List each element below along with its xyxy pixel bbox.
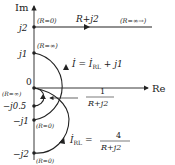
label-r0-top: (R=0) xyxy=(37,17,57,25)
locus-diagram: Im Re j2 j1 0 −j0.5 −j1 −j2 (R=0) R+j2 (… xyxy=(0,0,175,165)
label-r0-mj1: (R=0) xyxy=(36,122,55,129)
tick-mj05: −j0.5 xyxy=(3,101,26,111)
label-r-inf-right: (R=∞→) xyxy=(120,17,147,25)
point-j1 xyxy=(32,51,36,55)
tick-j1: j1 xyxy=(17,49,28,59)
tick-mj2: −j2 xyxy=(13,149,29,159)
im-label: Im xyxy=(15,2,29,13)
point-origin xyxy=(32,86,36,90)
arrow-up-icon-2 xyxy=(59,137,65,144)
locus-i xyxy=(34,53,62,120)
eq-irl-den: R+j2 xyxy=(100,143,121,152)
arrow-up-icon xyxy=(63,64,69,70)
point-mj2 xyxy=(32,151,36,155)
arrow-up-icon-3 xyxy=(40,94,46,99)
eq-inv-den: R+j2 xyxy=(87,99,108,108)
arrow-right-icon xyxy=(84,24,90,30)
tick-mj1: −j1 xyxy=(13,116,29,126)
eq-i-total: İ = İRL + j1 xyxy=(71,58,123,70)
eq-irl: İRL = xyxy=(69,134,92,146)
re-label: Re xyxy=(152,83,166,94)
eq-inv-num: 1 xyxy=(100,87,105,96)
label-r-inf-j1: (R=∞) xyxy=(37,42,58,50)
label-r-plus-j2: R+j2 xyxy=(75,14,99,24)
eq-irl-num: 4 xyxy=(116,131,121,140)
label-r0-mj2: (R=0) xyxy=(36,157,55,164)
tick-j2: j2 xyxy=(17,23,28,33)
tick-zero: 0 xyxy=(26,77,32,87)
point-mj05 xyxy=(32,104,36,108)
label-r-inf-origin: (R=∞) xyxy=(2,90,22,97)
point-j2 xyxy=(32,25,36,29)
